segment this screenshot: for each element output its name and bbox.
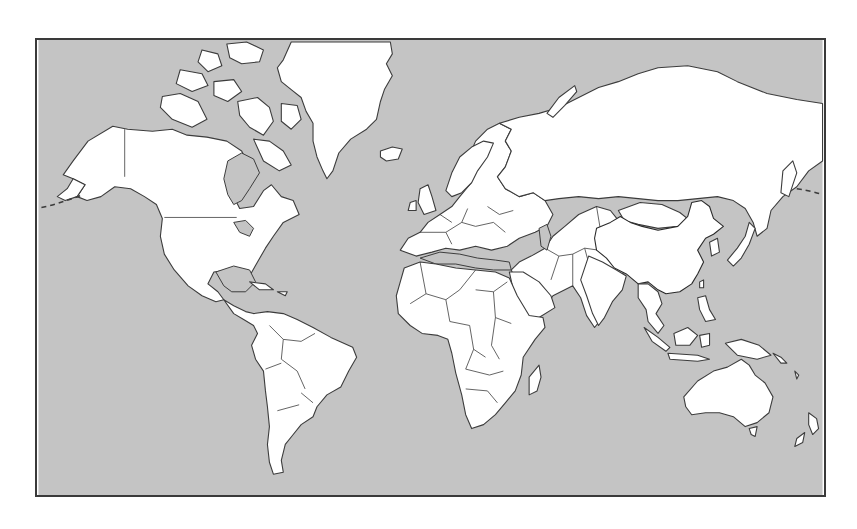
taiwan	[700, 280, 704, 288]
map-canvas	[37, 40, 824, 495]
world-map: World map with China highlighted	[35, 38, 826, 497]
korea	[710, 238, 720, 256]
